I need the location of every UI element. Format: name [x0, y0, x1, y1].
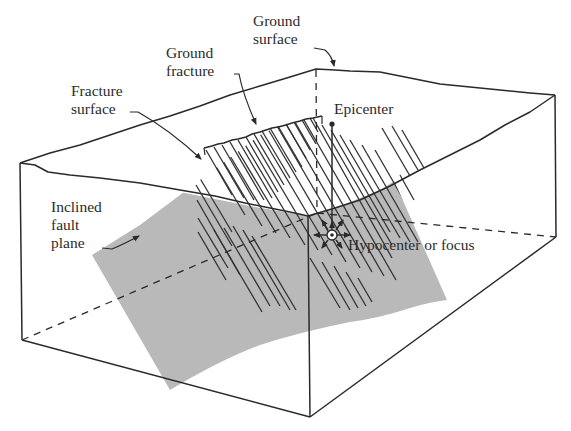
label-ground-fracture: Ground fracture — [166, 44, 214, 80]
label-hypocenter-text: Hypocenter or focus — [348, 236, 475, 254]
label-ground-fracture-line2: fracture — [166, 62, 214, 80]
label-ground-surface: Ground surface — [253, 12, 300, 48]
label-fault-plane-line3: plane — [51, 234, 102, 252]
label-ground-fracture-line1: Ground — [166, 44, 214, 62]
label-fault-plane-line2: fault — [51, 216, 102, 234]
label-epicenter-text: Epicenter — [334, 100, 393, 118]
label-inclined-fault-plane: Inclined fault plane — [51, 198, 102, 252]
label-fracture-surface-line1: Fracture — [71, 82, 123, 100]
label-fracture-surface-line2: surface — [71, 100, 123, 118]
label-ground-surface-line2: surface — [253, 30, 300, 48]
label-ground-surface-line1: Ground — [253, 12, 300, 30]
label-epicenter: Epicenter — [334, 100, 393, 118]
label-fault-plane-line1: Inclined — [51, 198, 102, 216]
label-fracture-surface: Fracture surface — [71, 82, 123, 118]
label-hypocenter: Hypocenter or focus — [348, 236, 475, 254]
